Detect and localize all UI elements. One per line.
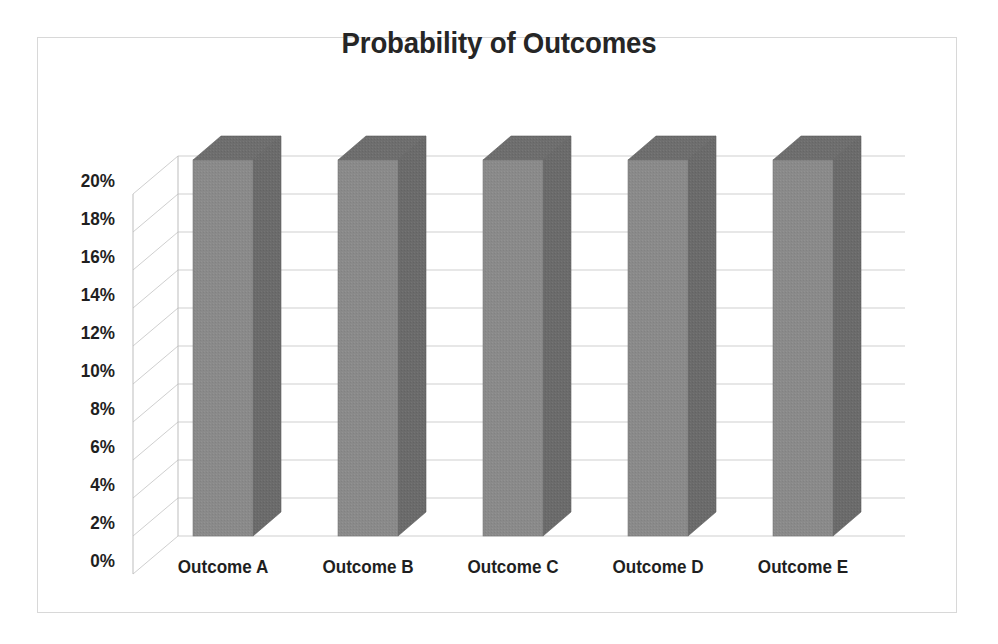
y-tick-label-0: 0% [59, 550, 115, 572]
y-tick-label-4: 4% [59, 474, 115, 496]
y-tick-label-10: 10% [59, 360, 115, 382]
chart-frame [37, 37, 957, 613]
y-tick-label-20: 20% [59, 170, 115, 192]
y-tick-label-14: 14% [59, 284, 115, 306]
y-tick-label-12: 12% [59, 322, 115, 344]
x-tick-label-outcome-d: Outcome D [582, 556, 735, 578]
x-tick-label-outcome-b: Outcome B [292, 556, 445, 578]
y-tick-label-6: 6% [59, 436, 115, 458]
y-tick-label-2: 2% [59, 512, 115, 534]
x-tick-label-outcome-e: Outcome E [727, 556, 880, 578]
x-tick-label-outcome-a: Outcome A [147, 556, 300, 578]
y-tick-label-8: 8% [59, 398, 115, 420]
y-tick-label-16: 16% [59, 246, 115, 268]
x-tick-label-outcome-c: Outcome C [437, 556, 590, 578]
y-tick-label-18: 18% [59, 208, 115, 230]
chart-title: Probability of Outcomes [40, 26, 958, 60]
